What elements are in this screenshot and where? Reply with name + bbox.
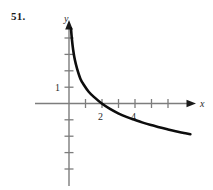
- y-axis-label: y: [63, 13, 69, 24]
- graph-plot: y x 1 2 4: [0, 0, 213, 190]
- figure-container: 51. y x: [0, 0, 213, 190]
- function-curve: [71, 28, 190, 134]
- y-tick-label-1: 1: [55, 82, 60, 93]
- x-axis-arrowhead: [187, 100, 197, 107]
- x-tick-label-2: 2: [98, 111, 103, 122]
- x-axis-label: x: [199, 98, 205, 109]
